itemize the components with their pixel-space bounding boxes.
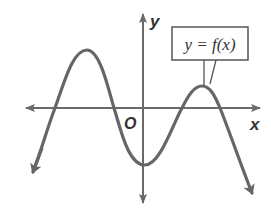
function-graph: y x O y = f(x) (0, 0, 271, 215)
function-label-callout: y = f(x) (172, 27, 248, 86)
y-axis-label: y (149, 12, 161, 31)
origin-label: O (124, 115, 137, 132)
function-label: y = f(x) (182, 35, 235, 54)
x-axis-label: x (249, 115, 261, 134)
curve-left-end (33, 148, 42, 172)
callout-pointer-2 (210, 60, 216, 84)
